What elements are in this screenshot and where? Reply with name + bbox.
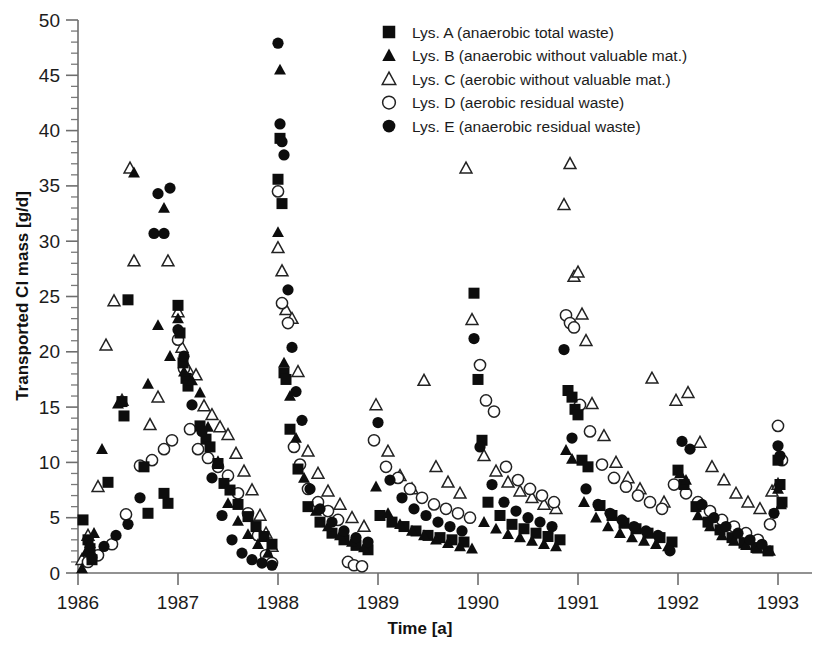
x-tick-label: 1987	[157, 592, 199, 613]
data-point	[573, 409, 584, 420]
data-point	[158, 444, 169, 455]
data-point	[480, 395, 491, 406]
data-point	[604, 508, 615, 519]
data-point	[708, 512, 719, 523]
data-point	[768, 508, 779, 519]
data-point	[512, 474, 523, 485]
data-point	[192, 444, 203, 455]
data-point	[205, 441, 216, 452]
data-point	[432, 517, 443, 528]
data-point	[338, 525, 349, 536]
x-tick-label: 1991	[557, 592, 599, 613]
data-point	[272, 38, 283, 49]
data-point	[139, 461, 150, 472]
data-point	[277, 198, 288, 209]
data-point	[186, 399, 197, 410]
data-point	[274, 118, 285, 129]
y-tick-label: 50	[39, 10, 60, 31]
legend-item-c[interactable]: Lys. C (aerobic without valuable mat.)	[382, 71, 670, 88]
data-point	[568, 322, 579, 333]
data-point	[507, 519, 518, 530]
data-point	[473, 374, 484, 385]
data-point	[233, 499, 244, 510]
data-point	[486, 479, 497, 490]
data-point	[684, 444, 695, 455]
data-point	[744, 534, 755, 545]
legend-item-a[interactable]: Lys. A (anaerobic total waste)	[383, 24, 614, 41]
data-point	[510, 505, 521, 516]
legend-label: Lys. C (aerobic without valuable mat.)	[412, 71, 671, 88]
data-point	[304, 483, 315, 494]
y-tick-label: 20	[39, 341, 60, 362]
data-point	[558, 344, 569, 355]
data-point	[656, 503, 667, 514]
data-point	[500, 461, 511, 472]
data-point	[184, 424, 195, 435]
data-point	[580, 483, 591, 494]
x-axis-title: Time [a]	[388, 619, 453, 638]
data-point	[772, 440, 783, 451]
y-tick-label: 15	[39, 397, 60, 418]
data-point	[173, 300, 184, 311]
x-tick-label: 1992	[657, 592, 699, 613]
data-point	[290, 386, 301, 397]
data-point	[236, 547, 247, 558]
data-point	[282, 317, 293, 328]
data-point	[178, 351, 189, 362]
data-point	[756, 539, 767, 550]
data-point	[534, 517, 545, 528]
x-tick-label: 1988	[257, 592, 299, 613]
data-point	[652, 530, 663, 541]
data-point	[152, 188, 163, 199]
data-point	[456, 525, 467, 536]
data-point	[163, 498, 174, 509]
legend-item-d[interactable]: Lys. D (aerobic residual waste)	[383, 94, 625, 111]
data-point	[428, 499, 439, 510]
data-point	[243, 511, 254, 522]
data-point	[315, 517, 326, 528]
data-point	[469, 288, 480, 299]
data-point	[384, 474, 395, 485]
chart-svg: 05101520253035404550 1986198719881989199…	[0, 0, 823, 645]
data-point	[774, 450, 785, 461]
x-tick-label: 1990	[457, 592, 499, 613]
data-point	[488, 406, 499, 417]
data-point	[78, 514, 89, 525]
data-point	[566, 432, 577, 443]
legend-label: Lys. D (aerobic residual waste)	[412, 94, 624, 111]
data-point	[120, 509, 131, 520]
data-point	[158, 228, 169, 239]
data-point	[584, 426, 595, 437]
data-point	[474, 359, 485, 370]
legend-item-b[interactable]: Lys. B (anaerobic without valuable mat.)	[382, 47, 687, 64]
data-point	[668, 479, 679, 490]
data-point	[251, 521, 262, 532]
data-point	[732, 528, 743, 539]
data-point	[286, 342, 297, 353]
data-point	[420, 510, 431, 521]
data-point	[256, 557, 267, 568]
data-point	[273, 174, 284, 185]
data-point	[546, 521, 557, 532]
data-point	[276, 136, 287, 147]
data-point	[122, 519, 133, 530]
data-point	[548, 497, 559, 508]
legend-marker-filled-square	[383, 26, 396, 39]
data-point	[416, 492, 427, 503]
data-point	[293, 464, 304, 475]
legend-label: Lys. E (anaerobic residual waste)	[412, 118, 641, 135]
data-point	[616, 514, 627, 525]
legend-item-e[interactable]: Lys. E (anaerobic residual waste)	[383, 118, 641, 135]
y-tick-label: 30	[39, 231, 60, 252]
x-tick-label: 1993	[757, 592, 799, 613]
data-point	[356, 561, 367, 572]
y-tick-label: 35	[39, 175, 60, 196]
data-point	[148, 228, 159, 239]
data-point	[225, 485, 236, 496]
data-point	[444, 521, 455, 532]
data-point	[640, 525, 651, 536]
data-point	[202, 452, 213, 463]
data-point	[632, 490, 643, 501]
data-point	[288, 441, 299, 452]
y-tick-label: 5	[49, 507, 60, 528]
